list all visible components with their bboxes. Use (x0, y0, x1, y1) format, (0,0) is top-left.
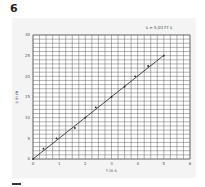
x-tick-label: 6 (189, 161, 192, 166)
data-point (43, 148, 45, 150)
x-axis-label: t in s (106, 168, 116, 173)
data-point (32, 158, 34, 160)
y-tick-label: 15 (25, 94, 31, 99)
y-tick-label: 20 (25, 74, 31, 79)
x-tick-label: 3 (110, 161, 113, 166)
x-tick-label: 4 (136, 161, 139, 166)
exercise-number: 6 (10, 2, 18, 15)
x-tick-label: 0 (32, 161, 35, 166)
data-point (163, 55, 165, 57)
data-point (74, 127, 76, 129)
data-point (95, 106, 97, 108)
data-point (84, 117, 86, 119)
y-tick-label: 0 (27, 156, 30, 161)
x-tick-label: 2 (84, 161, 87, 166)
data-point (124, 86, 126, 88)
x-tick-label: 1 (58, 161, 61, 166)
data-point (111, 96, 113, 98)
y-tick-label: 5 (27, 136, 30, 141)
data-point (147, 65, 149, 67)
fit-equation-annotation: s = 5,0177 s (146, 25, 173, 30)
data-point (134, 75, 136, 77)
y-tick-label: 10 (25, 115, 31, 120)
chart-container: 0123456051015202530 t in s s in m s = 5,… (12, 18, 196, 178)
x-tick-label: 5 (163, 161, 166, 166)
chart-svg: 0123456051015202530 t in s s in m s = 5,… (12, 18, 196, 178)
next-exercise-number-partial (12, 183, 21, 185)
y-tick-label: 30 (25, 32, 31, 37)
y-tick-label: 25 (25, 53, 31, 58)
y-axis-label: s in m (14, 91, 19, 104)
data-point (56, 137, 58, 139)
